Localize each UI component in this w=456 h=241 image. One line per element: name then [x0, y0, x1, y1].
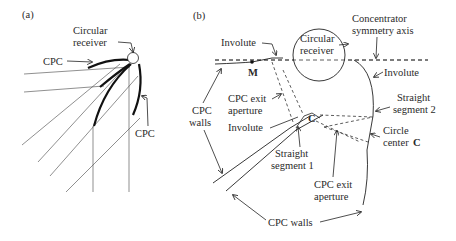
circle-center-label-2: center: [383, 137, 409, 148]
receiver-label-b1: Circular: [300, 33, 335, 44]
incident-rays: [22, 64, 140, 192]
cpc-wall-right: [354, 60, 373, 205]
point-m-label: M: [248, 67, 258, 78]
involute-right-label: Involute: [384, 67, 419, 78]
cpc-reflector: [88, 60, 141, 126]
point-m-dot: [250, 60, 254, 64]
exit-aperture-bottom-label-1: CPC exit: [314, 179, 352, 190]
cpc-diagram: (a) Circular receiver CPC CPC: [0, 0, 456, 241]
arrow-straight1: [298, 127, 300, 147]
receiver-label-b2: receiver: [300, 45, 334, 56]
axis-label-2: symmetry axis: [352, 25, 414, 36]
arrow-circle-center: [371, 134, 380, 137]
arrow-cpc-walls-up: [203, 69, 221, 103]
circular-receiver-a: [128, 53, 139, 64]
arrow-cpc-walls-bottom-right: [320, 212, 361, 222]
arrow-involute-right: [374, 72, 383, 77]
arrow-exit-aperture-top: [272, 94, 281, 99]
involute-mid-label: Involute: [228, 122, 263, 133]
receiver-label-a1: Circular: [73, 25, 108, 36]
straight2-label-2: segment 2: [393, 104, 436, 115]
cpc-walls-left-label-1: CPC: [192, 105, 212, 116]
panel-a: (a) Circular receiver CPC CPC: [22, 9, 155, 192]
arrow-axis: [376, 37, 377, 58]
arrow-involute-top: [262, 43, 276, 55]
circle-center-letter: C: [413, 137, 421, 148]
arrow-cpc-walls-bottom-left: [233, 195, 266, 220]
arrow-cpc-walls-down: [204, 130, 222, 173]
receiver-label-a2: receiver: [73, 37, 107, 48]
arrow-cpc-a-right: [142, 96, 148, 126]
axis-label-1: Concentrator: [352, 13, 407, 24]
cpc-label-a-left: CPC: [43, 56, 63, 67]
involute-top-label: Involute: [221, 37, 256, 48]
exit-aperture-bottom-label-2: aperture: [314, 191, 349, 202]
circle-center-label-1: Circle: [383, 125, 409, 136]
exit-aperture-top-label-2: aperture: [228, 105, 263, 116]
arrow-cpc-a-left: [67, 61, 92, 62]
panel-b: (b) M C Involute Circular rec: [189, 10, 436, 228]
arrow-exit-aperture-bottom: [333, 131, 337, 177]
arrow-straight2: [376, 107, 390, 111]
cpc-label-a-right: CPC: [135, 128, 155, 139]
panel-a-tag: (a): [22, 9, 34, 21]
arrow-receiver-a: [118, 42, 133, 52]
cpc-walls-left-label-2: walls: [189, 117, 211, 128]
leader-involute-mid: [270, 117, 298, 128]
exit-aperture-top-label-1: CPC exit: [228, 93, 266, 104]
straight1-label-2: segment 1: [271, 160, 314, 171]
cpc-walls-bottom-label: CPC walls: [268, 217, 313, 228]
point-c-label: C: [308, 113, 316, 124]
straight2-label-1: Straight: [397, 92, 430, 103]
panel-b-tag: (b): [193, 10, 206, 22]
straight1-label-1: Straight: [275, 148, 308, 159]
